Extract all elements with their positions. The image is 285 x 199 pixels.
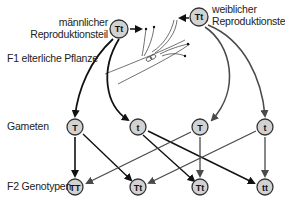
punnett-diagram: Tt Tt T t T t TT Tt Tt tt männlicher Rep… — [0, 0, 285, 199]
female-genotype: Tt — [195, 12, 204, 22]
male-label-line2: Reproduktionsteil — [28, 28, 108, 40]
arrow-male-to-t — [107, 39, 128, 120]
female-label-line2: Reproduktionsteil — [212, 15, 285, 27]
gamete-allele: t — [264, 123, 267, 133]
f2-genotype: Tt — [196, 183, 205, 193]
f2-label: F2 Genotypen — [7, 180, 71, 192]
gamete-allele: T — [72, 123, 78, 133]
male-genotype: Tt — [115, 24, 124, 34]
arrow-fT-to-TT — [87, 132, 191, 183]
female-label-line1: weiblicher — [212, 3, 285, 15]
gametes-label: Gameten — [7, 120, 49, 132]
gamete-allele: t — [137, 123, 140, 133]
female-label: weiblicher Reproduktionsteil — [212, 3, 285, 27]
f2-genotype: TT — [70, 183, 81, 193]
arrow-female-to-T — [205, 27, 230, 120]
gamete-allele: T — [197, 123, 203, 133]
f2-genotype: tt — [262, 183, 268, 193]
male-label: männlicher Reproduktionsteil — [28, 16, 108, 40]
male-label-line1: männlicher — [28, 16, 108, 28]
f2-genotype: Tt — [134, 183, 143, 193]
f1-label: F1 elterliche Pflanze — [7, 52, 98, 64]
